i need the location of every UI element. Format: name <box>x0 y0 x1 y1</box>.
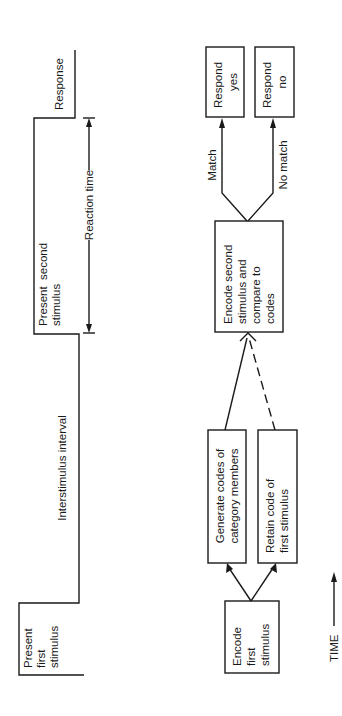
present-first-stimulus-label: Present first stimulus <box>22 626 60 668</box>
present-first-line3: stimulus <box>48 626 60 668</box>
reaction-time-arrow: Reaction time <box>83 118 95 333</box>
present-first-line2: first <box>35 649 47 668</box>
present-second-stimulus-label: Present second stimulus <box>37 243 62 326</box>
arrowhead-down-icon <box>86 324 92 333</box>
present-second-line2: stimulus <box>50 284 62 326</box>
time-label: TIME <box>328 634 340 662</box>
respond-yes-box: Respond yes <box>206 47 244 117</box>
encode-second-line3: compare to <box>250 266 262 324</box>
interstimulus-interval-label: Interstimulus interval <box>56 415 68 520</box>
time-arrow-icon <box>331 572 337 582</box>
present-second-line1: Present second <box>37 243 49 326</box>
respond-no-line2: no <box>276 76 288 89</box>
encode-first-arrows <box>226 563 277 601</box>
retain-code-line2: first stimulus <box>278 489 290 553</box>
encode-first-stimulus-box: Encode first stimulus <box>225 601 279 673</box>
encode-first-line1: Encode <box>231 627 243 666</box>
respond-yes-line1: Respond <box>212 62 224 108</box>
encode-second-line4: codes <box>264 293 276 324</box>
generate-codes-box: Generate codes of category members <box>208 430 246 563</box>
match-label: Match <box>206 149 218 180</box>
arrowhead-icon <box>219 118 225 128</box>
encode-second-line1: Encode second <box>222 245 234 324</box>
cognitive-process-diagram: Present first stimulus Interstimulus int… <box>0 0 342 716</box>
retain-code-line1: Retain code of <box>264 478 276 553</box>
decision-arrows: Match No match <box>206 118 289 221</box>
svg-text:first: first <box>35 649 47 668</box>
reaction-time-label: Reaction time <box>83 170 95 240</box>
svg-text:Present: Present <box>22 628 34 668</box>
encode-second-stimulus-box: Encode second stimulus and compare to co… <box>215 221 283 332</box>
arrowhead-icon <box>270 118 276 128</box>
generate-codes-line2: category members <box>228 448 240 543</box>
respond-no-box: Respond no <box>255 47 294 117</box>
respond-yes-line2: yes <box>227 73 239 91</box>
respond-no-line1: Respond <box>261 62 273 108</box>
encode-first-line3: stimulus <box>259 624 271 666</box>
compare-arrows <box>225 333 275 430</box>
generate-codes-line1: Generate codes of <box>214 448 226 543</box>
present-first-line1: Present <box>22 628 34 668</box>
svg-text:stimulus: stimulus <box>48 626 60 668</box>
retain-code-box: Retain code of first stimulus <box>258 430 297 563</box>
response-label: Response <box>53 58 65 110</box>
encode-first-line2: first <box>245 647 257 666</box>
encode-second-line2: stimulus and <box>236 259 248 324</box>
timeline-trace <box>19 50 84 675</box>
no-match-label: No match <box>277 140 289 189</box>
time-axis: TIME <box>328 572 340 662</box>
arrowhead-up-icon <box>86 118 92 127</box>
